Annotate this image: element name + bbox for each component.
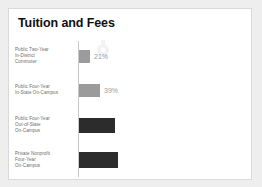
bar-category-label: Private Nonprofit Four-Year On-Campus: [15, 151, 75, 170]
bar-chart-plot-area: Public Two-Year In-District Commuter 21%…: [9, 39, 252, 180]
page-background: Tuition and Fees Public Two-Year In-Dist…: [0, 0, 262, 187]
chart-bar[interactable]: [79, 152, 118, 168]
bar-with-value: [79, 152, 118, 168]
bar-category-label: Public Four-Year Out-of-State On-Campus: [15, 116, 75, 135]
bar-category-label-line: Commuter: [15, 59, 75, 65]
bar-category-label-line: On-Campus: [15, 128, 75, 134]
chart-bar[interactable]: [79, 84, 100, 97]
bar-category-label-line: In-State On-Campus: [15, 90, 75, 96]
page-title: Tuition and Fees: [18, 16, 115, 30]
chart-bar[interactable]: [79, 50, 90, 63]
bar-category-label-line: On-Campus: [15, 163, 75, 169]
bar-category-label: Public Two-Year In-District Commuter: [15, 47, 75, 66]
bar-with-value: [79, 118, 115, 133]
bar-with-value: 39%: [79, 84, 118, 97]
bar-value-label: 21%: [94, 53, 108, 60]
chart-bar-row[interactable]: Public Four-Year In-State On-Campus 39%: [9, 73, 252, 107]
bar-with-value: 21%: [79, 50, 108, 63]
chart-bar[interactable]: [79, 118, 115, 133]
chart-card: Tuition and Fees Public Two-Year In-Dist…: [8, 8, 252, 180]
bar-value-label: 39%: [104, 87, 118, 94]
chart-bar-row[interactable]: Private Nonprofit Four-Year On-Campus: [9, 143, 252, 177]
chart-bar-row[interactable]: Public Two-Year In-District Commuter 21%: [9, 39, 252, 73]
chart-bar-row[interactable]: Public Four-Year Out-of-State On-Campus: [9, 108, 252, 142]
bar-category-label: Public Four-Year In-State On-Campus: [15, 84, 75, 96]
